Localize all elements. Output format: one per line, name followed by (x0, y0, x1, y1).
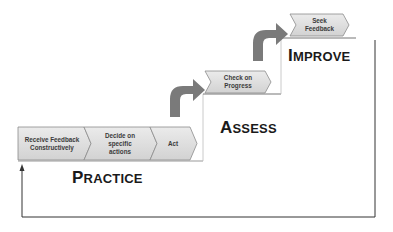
step-seek-feedback: SeekFeedback (295, 14, 344, 36)
stage-label-assess: ASSESS (220, 118, 277, 138)
step-receive-feedback: Receive FeedbackConstructively (18, 127, 86, 160)
stage-label-improve: IMPROVE (288, 46, 350, 66)
step-act: Act (156, 127, 190, 160)
curved-arrow-1 (170, 79, 205, 117)
step-decide-actions: Decide onspecificactions (90, 127, 150, 160)
curved-arrow-2 (253, 23, 288, 61)
stage-label-practice: PRACTICE (72, 168, 143, 188)
curved-arrows (170, 23, 288, 117)
step-check-progress: Check onProgress (210, 71, 266, 93)
